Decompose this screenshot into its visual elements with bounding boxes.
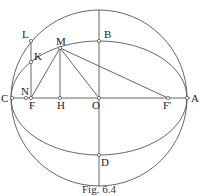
label-M: M: [56, 35, 66, 47]
point-C: [10, 96, 13, 99]
label-F: F: [29, 99, 35, 111]
label-B: B: [104, 28, 111, 40]
label-A: A: [191, 92, 199, 104]
label-K: K: [34, 50, 42, 62]
label-H: H: [57, 99, 65, 111]
point-B: [97, 39, 100, 42]
line-MO: [60, 48, 99, 98]
point-A: [185, 96, 188, 99]
figure-caption: Fig. 6.4: [82, 183, 116, 195]
ellipse-auxiliary-circle-diagram: L K M B C N F H O F′ A D Fig. 6.4: [0, 0, 200, 196]
label-O: O: [92, 99, 100, 111]
label-L: L: [22, 28, 29, 40]
label-F-prime: F′: [163, 99, 172, 111]
point-L: [29, 39, 32, 42]
label-D: D: [101, 156, 109, 168]
point-K: [29, 60, 32, 63]
label-N: N: [21, 85, 29, 97]
line-MF-prime: [60, 48, 168, 98]
label-C: C: [1, 92, 8, 104]
